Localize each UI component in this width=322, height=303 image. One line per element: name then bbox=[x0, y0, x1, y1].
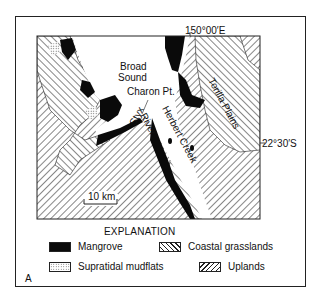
longitude-label: 150°00′E bbox=[185, 25, 225, 36]
latitude-label: 22°30′S bbox=[262, 138, 297, 149]
legend-label: Supratidal mudflats bbox=[78, 261, 164, 272]
legend-title: EXPLANATION bbox=[104, 226, 175, 237]
place-label-broad: Broad bbox=[120, 61, 147, 72]
place-label-charon-pt: Charon Pt. bbox=[127, 86, 175, 97]
mangrove-swatch-icon bbox=[49, 242, 71, 252]
legend-item-coastal-grasslands: Coastal grasslands bbox=[159, 241, 273, 252]
panel-letter: A bbox=[25, 273, 32, 284]
map-area bbox=[0, 0, 322, 303]
scale-bar-label: 10 km bbox=[87, 191, 116, 202]
legend-item-uplands: Uplands bbox=[199, 261, 265, 272]
place-label-sound: Sound bbox=[118, 72, 147, 83]
uplands-swatch-icon bbox=[199, 262, 221, 272]
legend-label: Coastal grasslands bbox=[188, 241, 273, 252]
legend-label: Uplands bbox=[228, 261, 265, 272]
coastal-grasslands-swatch-icon bbox=[159, 242, 181, 252]
legend-label: Mangrove bbox=[78, 241, 122, 252]
legend-item-supratidal-mudflats: Supratidal mudflats bbox=[49, 261, 164, 272]
legend-item-mangrove: Mangrove bbox=[49, 241, 122, 252]
mudflats-swatch-icon bbox=[49, 262, 71, 272]
